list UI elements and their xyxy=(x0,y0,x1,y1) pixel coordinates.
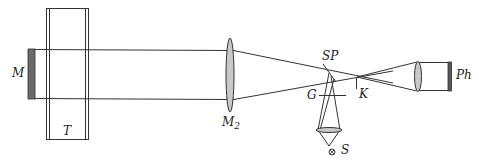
label-K: K xyxy=(359,88,368,100)
optical-diagram: M T M2 SP G K S Ph xyxy=(0,0,479,165)
lens-source xyxy=(316,128,342,133)
parallel-beam xyxy=(35,50,230,100)
label-T: T xyxy=(63,125,71,137)
mirror-M xyxy=(28,49,35,99)
label-G: G xyxy=(307,89,317,101)
label-M2-sub: 2 xyxy=(234,121,240,131)
photodetector-Ph xyxy=(448,62,452,91)
diagram-canvas xyxy=(0,0,479,165)
tube-T xyxy=(47,9,89,140)
light-source-S xyxy=(329,149,335,155)
label-Ph: Ph xyxy=(456,69,472,81)
lens-detector xyxy=(415,62,422,92)
label-SP: SP xyxy=(322,50,338,62)
lens-M2 xyxy=(226,38,234,112)
label-M2: M2 xyxy=(222,116,240,131)
label-M: M xyxy=(12,67,24,79)
label-M2-main: M xyxy=(222,115,234,129)
label-S: S xyxy=(341,144,349,156)
